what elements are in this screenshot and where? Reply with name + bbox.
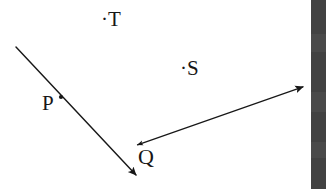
segment-ray-from-Q: [138, 87, 304, 145]
point-label-S: ·S: [180, 58, 199, 79]
point-label-P: P: [42, 93, 54, 114]
point-label-T: ·T: [101, 9, 121, 30]
scan-edge-band: [311, 0, 326, 189]
segment-ray-through-P: [16, 47, 136, 175]
ray-from-Q-up-right: [138, 87, 304, 145]
geometry-figure: P Q ·T ·S: [0, 0, 326, 189]
ray-through-P-to-arrowhead: [16, 47, 136, 175]
point-marker-P: [59, 95, 63, 99]
point-label-Q: Q: [138, 146, 154, 168]
